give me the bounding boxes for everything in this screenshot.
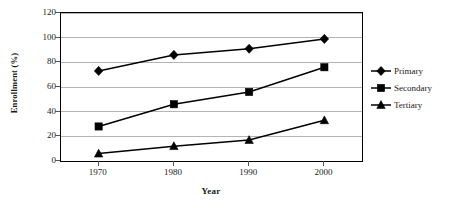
- square-marker-icon: [370, 81, 392, 95]
- y-axis-title: Enrollment (%): [6, 0, 22, 165]
- y-tick-label: 120: [28, 8, 56, 17]
- chart-legend: PrimarySecondaryTertiary: [370, 62, 453, 113]
- x-tick-label: 1970: [78, 168, 118, 177]
- x-tick-mark: [248, 161, 249, 166]
- legend-item-secondary[interactable]: Secondary: [370, 79, 453, 96]
- y-tick-mark: [55, 111, 60, 112]
- legend-label: Primary: [392, 66, 423, 76]
- legend-item-tertiary[interactable]: Tertiary: [370, 96, 453, 113]
- data-point: [94, 66, 103, 75]
- data-point: [170, 101, 177, 108]
- x-tick-label: 1990: [228, 168, 268, 177]
- x-tick-mark: [173, 161, 174, 166]
- y-tick-label: 100: [28, 32, 56, 41]
- y-tick-mark: [55, 12, 60, 13]
- y-tick-label: 60: [28, 82, 56, 91]
- series-line: [99, 120, 325, 153]
- data-point: [95, 123, 102, 130]
- series-tertiary: [94, 116, 328, 157]
- legend-label: Tertiary: [392, 100, 422, 110]
- series-layer: [61, 13, 362, 161]
- x-tick-mark: [98, 161, 99, 166]
- data-point: [320, 116, 328, 124]
- data-point: [246, 88, 253, 95]
- series-secondary: [95, 64, 328, 130]
- series-primary: [94, 34, 328, 75]
- triangle-marker-icon: [370, 98, 392, 112]
- x-tick-label: 1980: [153, 168, 193, 177]
- chart-figure: Enrollment (%) 020406080100120 197019801…: [0, 0, 453, 208]
- x-tick-label: 2000: [303, 168, 343, 177]
- y-tick-label: 0: [28, 156, 56, 165]
- y-tick-label: 20: [28, 131, 56, 140]
- y-axis-title-text: Enrollment (%): [9, 52, 19, 113]
- y-tick-label: 40: [28, 106, 56, 115]
- y-tick-mark: [55, 135, 60, 136]
- y-tick-label: 80: [28, 57, 56, 66]
- data-point: [170, 50, 179, 59]
- y-tick-mark: [55, 37, 60, 38]
- y-tick-mark: [55, 61, 60, 62]
- data-point: [245, 44, 254, 53]
- series-line: [99, 67, 325, 126]
- x-tick-mark: [323, 161, 324, 166]
- data-point: [320, 34, 329, 43]
- data-point: [321, 64, 328, 71]
- y-tick-mark: [55, 86, 60, 87]
- plot-area: [60, 12, 363, 162]
- y-tick-mark: [55, 160, 60, 161]
- diamond-marker-icon: [370, 64, 392, 78]
- x-axis-tick-labels: 1970198019902000: [0, 168, 453, 182]
- x-axis-title: Year: [60, 186, 362, 196]
- legend-label: Secondary: [392, 83, 432, 93]
- series-line: [99, 39, 325, 71]
- legend-item-primary[interactable]: Primary: [370, 62, 453, 79]
